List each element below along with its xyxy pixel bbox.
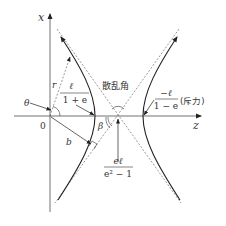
repulsive-denominator: 1 − e (154, 101, 178, 111)
attractive-vertex-pointer (76, 105, 94, 115)
repulsive-vertex-fraction: −ℓ 1 − e (斥力) (154, 88, 205, 111)
theta-pointer (30, 103, 51, 110)
beta-angle-arc (108, 117, 112, 126)
z-axis-label: z (192, 119, 199, 132)
origin-label: 0 (40, 121, 46, 131)
hyperbolic-orbit-diagram: x z 0 θ r b β 散乱角 ℓ 1 + e −ℓ 1 − e (斥力) … (0, 0, 226, 226)
r-label: r (52, 80, 57, 90)
attractive-denominator: 1 + e (63, 95, 87, 105)
center-offset-fraction: eℓ e² − 1 (104, 156, 133, 179)
center-numerator: eℓ (113, 156, 122, 166)
beta-label: β (97, 121, 103, 131)
repulsive-vertex-pointer (144, 100, 154, 115)
attractive-numerator: ℓ (69, 81, 73, 91)
center-denominator: e² − 1 (104, 169, 132, 179)
scattering-angle-label: 散乱角 (102, 80, 129, 91)
repulsive-numerator: −ℓ (160, 88, 172, 98)
x-axis-label: x (38, 11, 45, 24)
repulsive-note: (斥力) (180, 96, 205, 106)
attractive-vertex-fraction: ℓ 1 + e (60, 81, 89, 105)
theta-angle-arc (53, 107, 60, 117)
theta-label: θ (24, 98, 30, 108)
repulsive-orbit-branch (143, 37, 180, 200)
b-label: b (66, 137, 72, 147)
attractive-orbit-branch (58, 37, 95, 200)
